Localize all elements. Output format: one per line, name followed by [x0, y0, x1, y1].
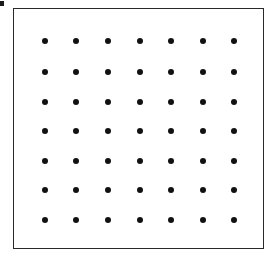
grid-dot: [168, 158, 174, 164]
grid-dot: [231, 187, 237, 193]
grid-dot: [200, 38, 206, 44]
grid-dot: [42, 158, 48, 164]
grid-dot: [200, 187, 206, 193]
grid-dot: [168, 99, 174, 105]
grid-dot: [42, 128, 48, 134]
grid-dot: [137, 187, 143, 193]
grid-dot: [42, 38, 48, 44]
grid-dot: [231, 128, 237, 134]
grid-dot: [168, 217, 174, 223]
grid-dot: [168, 69, 174, 75]
grid-dot: [42, 69, 48, 75]
grid-dot: [105, 128, 111, 134]
grid-dot: [231, 69, 237, 75]
dot-grid: [0, 0, 276, 259]
grid-dot: [168, 187, 174, 193]
grid-dot: [137, 69, 143, 75]
grid-dot: [73, 38, 79, 44]
grid-dot: [137, 99, 143, 105]
grid-dot: [105, 69, 111, 75]
grid-dot: [105, 217, 111, 223]
grid-dot: [105, 158, 111, 164]
grid-dot: [105, 38, 111, 44]
grid-dot: [200, 217, 206, 223]
grid-dot: [200, 128, 206, 134]
grid-dot: [73, 69, 79, 75]
grid-dot: [73, 128, 79, 134]
grid-dot: [200, 99, 206, 105]
grid-dot: [137, 217, 143, 223]
grid-dot: [168, 128, 174, 134]
grid-dot: [168, 38, 174, 44]
grid-dot: [137, 158, 143, 164]
grid-dot: [231, 158, 237, 164]
grid-dot: [200, 158, 206, 164]
grid-dot: [73, 187, 79, 193]
grid-dot: [42, 217, 48, 223]
grid-dot: [105, 99, 111, 105]
grid-dot: [42, 187, 48, 193]
grid-dot: [137, 38, 143, 44]
grid-dot: [73, 158, 79, 164]
grid-dot: [73, 217, 79, 223]
grid-dot: [42, 99, 48, 105]
grid-dot: [231, 99, 237, 105]
grid-dot: [105, 187, 111, 193]
grid-dot: [200, 69, 206, 75]
grid-dot: [73, 99, 79, 105]
grid-dot: [231, 217, 237, 223]
grid-dot: [231, 38, 237, 44]
grid-dot: [137, 128, 143, 134]
